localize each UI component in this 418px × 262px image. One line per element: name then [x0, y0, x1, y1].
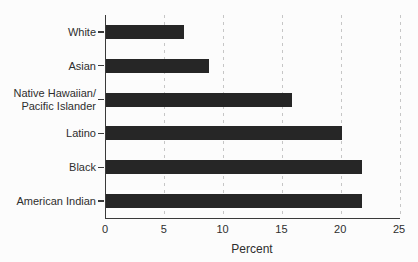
category-label: American Indian — [0, 195, 96, 208]
x-tick-label-0: 0 — [102, 223, 108, 235]
x-tick-label-10: 10 — [216, 223, 228, 235]
bar-native-hawaiian- — [106, 93, 292, 107]
x-tick-label-20: 20 — [334, 223, 346, 235]
bar-latino — [106, 126, 342, 140]
category-tick — [98, 99, 104, 100]
gridline-x-25 — [400, 15, 401, 218]
gridline-x-20 — [341, 15, 342, 218]
bar-asian — [106, 59, 209, 73]
category-tick — [98, 167, 104, 168]
category-label: Black — [0, 161, 96, 174]
category-tick — [98, 133, 104, 134]
category-tick — [98, 200, 104, 201]
category-label: Native Hawaiian/ Pacific Islander — [0, 87, 96, 113]
bar-black — [106, 160, 362, 174]
gridline-x-15 — [282, 15, 283, 218]
bar-american-indian — [106, 194, 362, 208]
category-label: White — [0, 25, 96, 38]
x-tick-label-25: 25 — [393, 223, 405, 235]
category-tick — [98, 65, 104, 66]
gridline-x-10 — [223, 15, 224, 218]
gridline-x-5 — [164, 15, 165, 218]
category-label: Latino — [0, 127, 96, 140]
x-tick-label-15: 15 — [275, 223, 287, 235]
category-label: Asian — [0, 59, 96, 72]
bar-chart: Percent 0510152025WhiteAsianNative Hawai… — [0, 0, 418, 262]
bar-white — [106, 25, 184, 39]
x-axis-title: Percent — [231, 242, 272, 256]
category-tick — [98, 31, 104, 32]
plot-area — [105, 15, 400, 219]
x-tick-label-5: 5 — [161, 223, 167, 235]
